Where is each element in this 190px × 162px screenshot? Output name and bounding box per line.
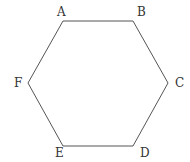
- vertex-label-f: F: [14, 76, 22, 90]
- vertex-label-d: D: [140, 146, 150, 160]
- hexagon-svg: A B C D E F: [0, 0, 190, 162]
- vertex-label-e: E: [55, 146, 64, 160]
- vertex-label-c: C: [175, 76, 184, 90]
- hexagon-shape: [28, 21, 168, 146]
- vertex-label-a: A: [56, 5, 66, 19]
- hexagon-diagram: A B C D E F: [0, 0, 190, 162]
- vertex-label-b: B: [137, 5, 146, 19]
